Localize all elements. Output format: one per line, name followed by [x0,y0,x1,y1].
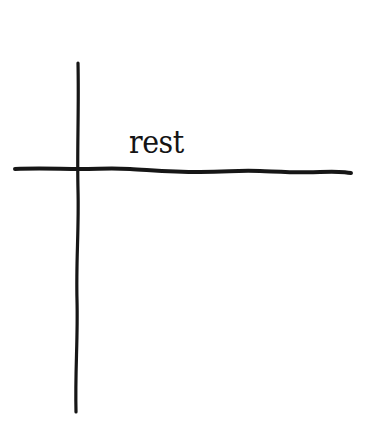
vertical-line [76,63,78,412]
cross-axes-drawing [0,0,381,448]
rest-label: rest [129,124,184,160]
diagram-canvas: rest [0,0,381,448]
horizontal-line [15,169,351,173]
